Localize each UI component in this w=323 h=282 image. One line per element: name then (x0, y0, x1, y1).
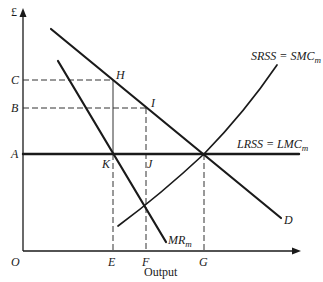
y-axis-arrow-icon (20, 8, 27, 17)
quantity-label-G: G (199, 255, 208, 269)
mr-label: MRm (167, 233, 192, 249)
x-axis-arrow-icon (292, 248, 301, 255)
price-label-B: B (11, 101, 19, 115)
srss-label-main: SRSS = SMC (251, 49, 315, 63)
price-label-A: A (10, 147, 19, 161)
mr-label-main: MR (167, 233, 186, 247)
marginal-revenue-curve (58, 61, 166, 242)
origin-label: O (11, 255, 20, 269)
quantity-label-E: E (107, 255, 116, 269)
srss-label: SRSS = SMCm (251, 49, 321, 65)
y-axis-label: £ (11, 5, 17, 19)
axes (20, 8, 302, 255)
quantity-label-F: F (141, 255, 150, 269)
monopoly-supply-diagram: £ O Output C B A E F G H I K J D MRm SRS… (0, 0, 323, 282)
lrss-label: LRSS = LMCm (236, 137, 309, 153)
point-label-K: K (101, 157, 111, 171)
point-label-H: H (115, 68, 126, 82)
lrss-label-main: LRSS = LMC (236, 137, 303, 151)
demand-label: D (283, 213, 293, 227)
srss-label-sub: m (314, 55, 321, 65)
demand-curve (51, 29, 281, 218)
point-label-J: J (147, 157, 153, 171)
lrss-label-sub: m (302, 143, 309, 153)
price-label-C: C (11, 73, 20, 87)
mr-label-sub: m (185, 239, 192, 249)
point-label-I: I (150, 96, 156, 110)
